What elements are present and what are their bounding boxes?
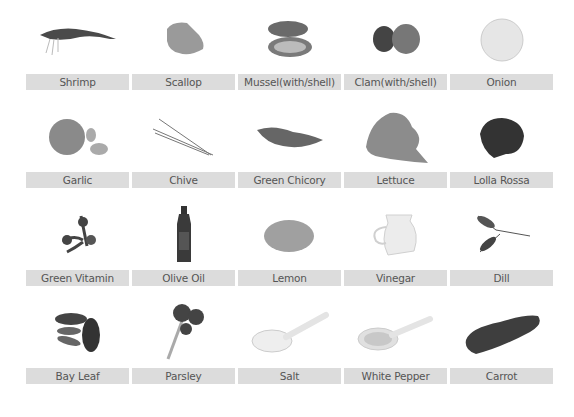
ingredient-label: Clam(with/shell) <box>344 74 447 90</box>
vinegar-icon <box>344 204 447 266</box>
ingredient-grid: Shrimp Scallop Mussel(with/shell) Clam(w… <box>26 0 556 392</box>
ingredient-label: Carrot <box>450 368 553 384</box>
ingredient-label: Lemon <box>238 270 341 286</box>
ingredient-card: Dill <box>450 196 553 294</box>
lettuce-icon <box>344 106 447 168</box>
green-vitamin-icon <box>26 204 129 266</box>
ingredient-label: Salt <box>238 368 341 384</box>
carrot-icon <box>450 302 553 364</box>
bay-leaf-icon <box>26 302 129 364</box>
salt-icon <box>238 302 341 364</box>
garlic-icon <box>26 106 129 168</box>
onion-icon <box>450 8 553 70</box>
ingredient-label: Mussel(with/shell) <box>238 74 341 90</box>
ingredient-label: Dill <box>450 270 553 286</box>
ingredient-label: Bay Leaf <box>26 368 129 384</box>
ingredient-card: Green Chicory <box>238 98 341 196</box>
ingredient-label: Vinegar <box>344 270 447 286</box>
ingredient-card: Lolla Rossa <box>450 98 553 196</box>
ingredient-card: Lemon <box>238 196 341 294</box>
ingredient-card: Mussel(with/shell) <box>238 0 341 98</box>
ingredient-card: Salt <box>238 294 341 392</box>
clam-icon <box>344 8 447 70</box>
ingredient-card: White Pepper <box>344 294 447 392</box>
ingredient-label: Green Chicory <box>238 172 341 188</box>
olive-oil-icon <box>132 204 235 266</box>
ingredient-card: Parsley <box>132 294 235 392</box>
ingredient-label: Olive Oil <box>132 270 235 286</box>
dill-icon <box>450 204 553 266</box>
ingredient-card: Clam(with/shell) <box>344 0 447 98</box>
ingredient-label: Garlic <box>26 172 129 188</box>
ingredient-label: Parsley <box>132 368 235 384</box>
mussel-icon <box>238 8 341 70</box>
ingredient-card: Onion <box>450 0 553 98</box>
ingredient-card: Lettuce <box>344 98 447 196</box>
chive-icon <box>132 106 235 168</box>
ingredient-card: Shrimp <box>26 0 129 98</box>
ingredient-label: Onion <box>450 74 553 90</box>
ingredient-label: Chive <box>132 172 235 188</box>
ingredient-card: Green Vitamin <box>26 196 129 294</box>
lolla-rossa-icon <box>450 106 553 168</box>
shrimp-icon <box>26 8 129 70</box>
ingredient-card: Bay Leaf <box>26 294 129 392</box>
white-pepper-icon <box>344 302 447 364</box>
ingredient-label: Lolla Rossa <box>450 172 553 188</box>
ingredient-label: White Pepper <box>344 368 447 384</box>
scallop-icon <box>132 8 235 70</box>
ingredient-card: Carrot <box>450 294 553 392</box>
ingredient-card: Chive <box>132 98 235 196</box>
ingredient-card: Garlic <box>26 98 129 196</box>
ingredient-label: Lettuce <box>344 172 447 188</box>
parsley-icon <box>132 302 235 364</box>
ingredient-card: Vinegar <box>344 196 447 294</box>
green-chicory-icon <box>238 106 341 168</box>
ingredient-card: Scallop <box>132 0 235 98</box>
lemon-icon <box>238 204 341 266</box>
ingredient-label: Scallop <box>132 74 235 90</box>
ingredient-card: Olive Oil <box>132 196 235 294</box>
ingredient-label: Shrimp <box>26 74 129 90</box>
ingredient-label: Green Vitamin <box>26 270 129 286</box>
